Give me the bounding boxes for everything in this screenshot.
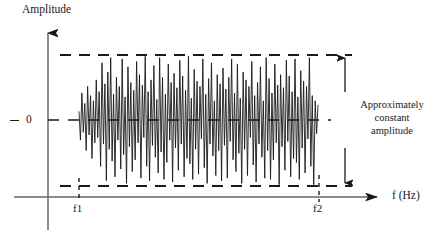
x-tick-label-f1: f1 [73, 202, 82, 215]
annotation-line-3: amplitude [355, 125, 429, 138]
constant-amplitude-annotation: Approximately constant amplitude [355, 99, 429, 137]
annotation-line-2: constant [355, 112, 429, 125]
y-tick-label-zero: 0 [26, 112, 32, 126]
signal-spectrum-figure: Amplitude 0 f1 f2 f (Hz) Approximately c… [0, 0, 431, 237]
annotation-line-1: Approximately [355, 99, 429, 112]
x-axis-label: f (Hz) [392, 188, 420, 202]
y-axis-label: Amplitude [22, 2, 71, 16]
zero-tick-dash [10, 120, 19, 121]
x-tick-label-f2: f2 [313, 202, 322, 215]
